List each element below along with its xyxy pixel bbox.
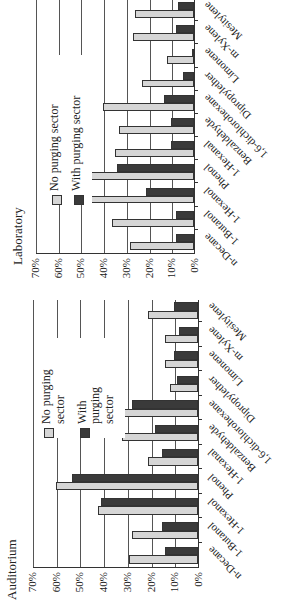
bar-with-purging	[178, 2, 194, 10]
bar-with-purging	[162, 523, 198, 531]
bar-no-purging	[130, 242, 194, 250]
x-tick	[198, 542, 202, 543]
x-tick	[198, 321, 202, 322]
x-tick	[194, 67, 198, 68]
bar-with-purging	[171, 141, 194, 149]
bar-no-purging	[133, 33, 194, 41]
bar-with-purging	[132, 400, 198, 408]
x-tick	[198, 444, 202, 445]
bar-no-purging	[119, 126, 194, 134]
bar-with-purging	[177, 376, 198, 384]
laboratory-chart-region: Laboratory 0%10%20%30%40%50%60%70%n-Deca…	[0, 0, 281, 300]
bar-no-purging	[132, 531, 198, 539]
light-gray-swatch-icon	[52, 195, 62, 205]
x-tick	[194, 159, 198, 160]
bar-no-purging	[129, 555, 198, 563]
legend-label-no-purging: No purging sector	[48, 105, 62, 191]
bar-with-purging	[192, 49, 194, 57]
legend-item-no-purging: No purging sector	[40, 338, 68, 438]
bar-with-purging	[174, 351, 198, 359]
auditorium-legend: No purging sector With purging sector	[40, 338, 125, 438]
legend-item-with-purging: With purging sector	[76, 338, 117, 438]
bar-no-purging	[165, 335, 198, 343]
bar-with-purging	[171, 118, 194, 126]
auditorium-chart: Auditorium 0%10%20%30%40%50%60%70%n-Deca…	[0, 300, 281, 608]
bar-with-purging	[176, 211, 194, 219]
bar-no-purging	[135, 10, 194, 18]
y-tick-label: 20%	[145, 572, 157, 606]
bar-no-purging	[170, 384, 198, 392]
x-tick	[198, 370, 202, 371]
dark-gray-swatch-icon	[80, 428, 90, 438]
y-tick-label: 40%	[97, 258, 109, 292]
legend-label-with-purging: With purging sector	[76, 364, 117, 424]
y-tick-label: 30%	[120, 258, 132, 292]
legend-item-no-purging: No purging sector	[48, 55, 62, 205]
dark-gray-swatch-icon	[74, 195, 84, 205]
gridline	[36, 0, 37, 253]
gridline	[33, 300, 34, 567]
bar-with-purging	[162, 449, 198, 457]
legend-item-with-purging: With purging sector	[70, 55, 84, 205]
bar-with-purging	[72, 474, 198, 482]
y-tick-label: 60%	[52, 258, 64, 292]
y-tick-label: 10%	[168, 572, 180, 606]
x-tick	[194, 113, 198, 114]
y-tick-label: 50%	[73, 572, 85, 606]
y-tick-label: 0%	[188, 258, 200, 292]
laboratory-chart-title: Laboratory	[10, 207, 26, 265]
x-tick	[198, 346, 202, 347]
bar-with-purging	[176, 25, 194, 33]
auditorium-chart-region: Auditorium 0%10%20%30%40%50%60%70%n-Deca…	[0, 300, 281, 608]
light-gray-swatch-icon	[44, 428, 54, 438]
bar-no-purging	[56, 482, 198, 490]
x-tick	[198, 419, 202, 420]
laboratory-chart: Laboratory 0%10%20%30%40%50%60%70%n-Deca…	[0, 0, 281, 300]
x-tick	[198, 493, 202, 494]
bar-no-purging	[115, 149, 195, 157]
y-tick-label: 70%	[26, 572, 38, 606]
x-tick	[194, 20, 198, 21]
bar-no-purging	[112, 219, 194, 227]
y-tick-label: 60%	[50, 572, 62, 606]
bar-with-purging	[174, 302, 198, 310]
auditorium-chart-title: Auditorium	[4, 539, 20, 600]
bar-with-purging	[165, 547, 198, 555]
x-tick	[194, 206, 198, 207]
y-tick-label: 40%	[97, 572, 109, 606]
bar-no-purging	[165, 360, 198, 368]
x-tick	[194, 43, 198, 44]
bar-with-purging	[146, 188, 194, 196]
bar-with-purging	[179, 327, 198, 335]
legend-label-with-purging: With purging sector	[70, 96, 84, 191]
bar-with-purging	[117, 164, 194, 172]
bar-with-purging	[101, 498, 198, 506]
y-tick-label: 10%	[165, 258, 177, 292]
bar-no-purging	[78, 196, 194, 204]
x-tick	[198, 517, 202, 518]
y-tick-label: 20%	[143, 258, 155, 292]
bar-no-purging	[148, 311, 198, 319]
y-tick-label: 30%	[121, 572, 133, 606]
y-tick-label: 0%	[192, 572, 204, 606]
x-tick	[194, 90, 198, 91]
gridline	[104, 0, 105, 253]
y-tick-label: 50%	[74, 258, 86, 292]
bar-with-purging	[164, 95, 194, 103]
bar-with-purging	[155, 425, 198, 433]
bar-no-purging	[98, 506, 198, 514]
x-tick	[194, 182, 198, 183]
y-tick-label: 70%	[29, 258, 41, 292]
bar-no-purging	[103, 103, 194, 111]
bar-no-purging	[122, 433, 198, 441]
legend-label-no-purging: No purging sector	[40, 338, 68, 424]
laboratory-legend: No purging sector With purging sector	[48, 55, 92, 205]
bar-no-purging	[167, 56, 194, 64]
bar-no-purging	[148, 457, 198, 465]
bar-with-purging	[176, 234, 194, 242]
bar-no-purging	[142, 80, 194, 88]
x-tick	[194, 136, 198, 137]
bar-with-purging	[183, 72, 194, 80]
x-tick	[198, 468, 202, 469]
x-tick	[198, 395, 202, 396]
